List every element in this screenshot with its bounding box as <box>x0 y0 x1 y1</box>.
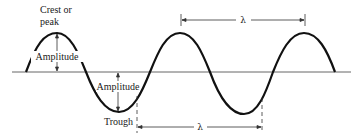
wavelength-label-top: λ <box>240 15 246 25</box>
wave-diagram: Amplitude Crest or peak Amplitude Trough… <box>0 0 360 139</box>
crest-label-line1: Crest or <box>40 4 73 15</box>
wavelength-label-bottom: λ <box>197 122 203 132</box>
crest-label-line2: peak <box>40 16 59 27</box>
sine-wave <box>26 33 335 114</box>
trough-label: Trough <box>104 116 133 127</box>
amplitude-label-lower: Amplitude <box>97 81 140 92</box>
amplitude-label-upper: Amplitude <box>36 51 79 62</box>
